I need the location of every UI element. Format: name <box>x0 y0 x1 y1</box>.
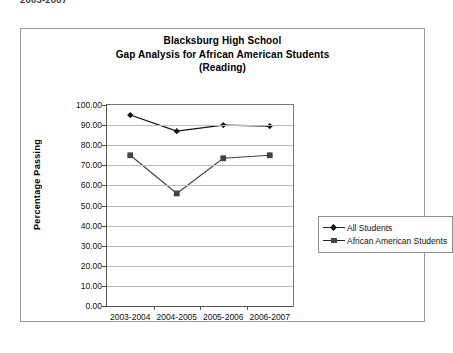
page-header-fragment: 2003-2007 <box>20 0 67 5</box>
chart-title-line-1: Blacksburg High School <box>21 34 424 48</box>
diamond-marker-icon <box>323 222 345 233</box>
series-line-1 <box>130 115 270 131</box>
chart-title-line-3: (Reading) <box>21 61 424 75</box>
y-axis-tick-label: 90.00 <box>54 120 102 130</box>
x-axis-tick-label: 2003-2004 <box>110 312 151 322</box>
y-axis-tick-label: 60.00 <box>54 180 102 190</box>
gridline <box>107 125 293 126</box>
y-axis-tick-mark <box>102 266 106 267</box>
x-axis-tick-mark <box>154 306 155 310</box>
y-axis-tick-mark <box>102 145 106 146</box>
square-marker-icon <box>323 235 345 246</box>
legend-item-2[interactable]: African American Students <box>323 234 447 247</box>
data-point-marker <box>127 152 133 158</box>
y-axis-tick-mark <box>102 306 106 307</box>
gridline <box>107 206 293 207</box>
y-axis-tick-label: 100.00 <box>54 100 102 110</box>
y-axis-tick-mark <box>102 286 106 287</box>
data-point-marker <box>267 123 273 129</box>
chart-title-line-2: Gap Analysis for African American Studen… <box>21 48 424 62</box>
gridline <box>107 145 293 146</box>
y-axis-tick-labels: 0.0010.0020.0030.0040.0050.0060.0070.008… <box>49 105 102 306</box>
chart-container: Blacksburg High School Gap Analysis for … <box>20 28 425 322</box>
y-axis-tick-mark <box>102 206 106 207</box>
y-axis-title: Percentage Passing <box>32 139 46 230</box>
x-axis-tick-mark <box>200 306 201 310</box>
y-axis-tick-label: 10.00 <box>54 281 102 291</box>
y-axis-tick-mark <box>102 185 106 186</box>
y-axis-tick-label: 0.00 <box>54 301 102 311</box>
data-point-marker <box>127 112 133 118</box>
plot-border-right <box>293 104 294 307</box>
y-axis-tick-mark <box>102 246 106 247</box>
plot-area <box>107 105 293 306</box>
x-axis-tick-label: 2006-2007 <box>249 312 290 322</box>
x-axis-tick-label: 2005-2006 <box>203 312 244 322</box>
y-axis-tick-label: 50.00 <box>54 201 102 211</box>
series-line-2 <box>130 155 270 193</box>
chart-legend: All StudentsAfrican American Students <box>318 216 453 253</box>
chart-title: Blacksburg High School Gap Analysis for … <box>21 34 424 75</box>
data-point-marker <box>220 155 226 161</box>
x-axis-tick-label: 2004-2005 <box>156 312 197 322</box>
gridline <box>107 165 293 166</box>
y-axis-tick-label: 20.00 <box>54 261 102 271</box>
gridline <box>107 185 293 186</box>
y-axis-tick-mark <box>102 165 106 166</box>
legend-item-label: All Students <box>347 223 392 233</box>
y-axis-tick-label: 80.00 <box>54 140 102 150</box>
data-point-marker <box>174 191 180 197</box>
y-axis-tick-mark <box>102 125 106 126</box>
legend-item-1[interactable]: All Students <box>323 221 447 234</box>
y-axis-tick-label: 40.00 <box>54 221 102 231</box>
data-point-marker <box>174 128 180 134</box>
gridline <box>107 286 293 287</box>
y-axis-tick-mark <box>102 226 106 227</box>
y-axis-tick-mark <box>102 105 106 106</box>
x-axis-tick-mark <box>247 306 248 310</box>
y-axis-tick-label: 30.00 <box>54 241 102 251</box>
data-point-marker <box>267 152 273 158</box>
legend-item-label: African American Students <box>347 236 447 246</box>
y-axis-tick-label: 70.00 <box>54 160 102 170</box>
gridline <box>107 226 293 227</box>
gridline <box>107 266 293 267</box>
gridline <box>107 246 293 247</box>
